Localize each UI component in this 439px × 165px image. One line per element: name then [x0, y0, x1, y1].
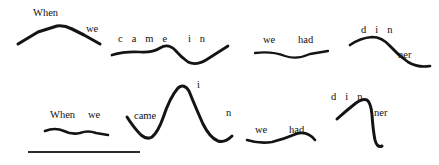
label-bottom-came: came [134, 111, 156, 122]
label-bottom-when: When [50, 110, 75, 121]
label-bottom-we-2: we [255, 125, 267, 136]
label-top-we-2: we [263, 35, 275, 46]
label-top-we: we [86, 24, 98, 35]
label-bottom-n: n [226, 108, 231, 119]
label-top-din: d i n [361, 25, 396, 36]
contour-top-we-had [255, 51, 328, 58]
contour-bottom-when-we [45, 129, 108, 135]
intonation-contour-figure: When we c a m e i n we had d i n ner Whe… [0, 0, 439, 165]
label-top-came-in: c a m e i n [118, 34, 208, 45]
label-bottom-i: i [197, 80, 200, 91]
contour-top-dinner [350, 37, 430, 67]
label-bottom-ner: ner [374, 108, 387, 119]
label-bottom-had: had [289, 125, 304, 136]
label-bottom-din: d i n [331, 92, 366, 103]
label-top-had: had [298, 35, 313, 46]
label-top-ner: ner [398, 50, 411, 61]
label-top-when: When [33, 8, 58, 19]
contour-top-came-in [112, 46, 228, 64]
label-bottom-we: we [88, 110, 100, 121]
